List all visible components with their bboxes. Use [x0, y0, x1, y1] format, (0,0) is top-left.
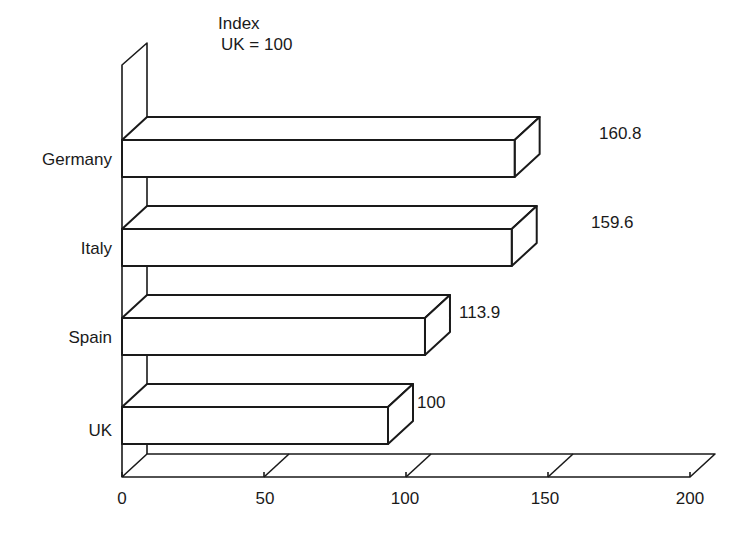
- bar-front-face: [122, 140, 515, 177]
- x-tick-label-150: 150: [531, 489, 559, 509]
- floor-gridline: [264, 454, 289, 477]
- value-label-spain: 113.9: [459, 303, 500, 323]
- bar-chart-3d: [0, 0, 750, 534]
- bar-spain: [122, 295, 450, 355]
- x-tick-label-50: 50: [256, 489, 275, 509]
- floor-gridline: [548, 454, 573, 477]
- category-label-uk: UK: [0, 421, 112, 441]
- value-label-germany: 160.8: [599, 124, 642, 144]
- bar-top-face: [122, 117, 540, 140]
- chart-bars: [122, 117, 540, 444]
- category-label-italy: Italy: [0, 239, 112, 259]
- chart-title-line-1: Index: [218, 13, 292, 34]
- bar-front-face: [122, 318, 425, 355]
- bar-germany: [122, 117, 540, 177]
- chart-title-line-2: UK = 100: [221, 34, 292, 55]
- bar-top-face: [122, 206, 537, 229]
- bar-front-face: [122, 229, 512, 266]
- x-tick-label-100: 100: [391, 489, 419, 509]
- value-label-italy: 159.6: [591, 213, 634, 233]
- chart-title: Index UK = 100: [218, 13, 292, 55]
- value-label-uk: 100: [417, 393, 445, 413]
- bar-top-face: [122, 295, 450, 318]
- x-tick-label-200: 200: [676, 489, 704, 509]
- x-tick-label-0: 0: [117, 489, 126, 509]
- bar-uk: [122, 384, 413, 444]
- bar-italy: [122, 206, 537, 266]
- bar-top-face: [122, 384, 413, 407]
- bar-front-face: [122, 407, 388, 444]
- floor-gridline: [406, 454, 431, 477]
- category-label-spain: Spain: [0, 328, 112, 348]
- category-label-germany: Germany: [0, 150, 112, 170]
